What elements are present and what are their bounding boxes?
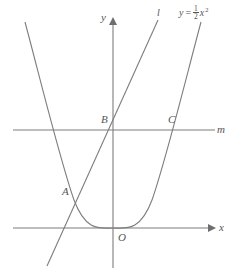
line-m-label: m — [217, 124, 225, 135]
equation-denominator: 2 — [193, 12, 199, 21]
point-c-label: C — [168, 114, 175, 125]
point-a-label: A — [62, 186, 69, 197]
equation-variable: x — [200, 8, 204, 18]
y-axis-arrow-icon — [109, 17, 117, 25]
equation-operator: = — [184, 8, 192, 18]
line-l-label: l — [157, 8, 160, 18]
x-axis-label: x — [219, 222, 224, 233]
x-axis-arrow-icon — [208, 224, 216, 232]
equation-numerator: 1 — [193, 5, 199, 13]
point-b-label: B — [101, 114, 108, 125]
math-figure: y x O A B C l m y = 1 2 x 2 — [0, 0, 242, 275]
equation-exponent: 2 — [205, 7, 208, 14]
equation-fraction: 1 2 — [193, 5, 199, 22]
y-axis-label: y — [101, 12, 106, 23]
origin-label: O — [118, 232, 126, 243]
line-l — [47, 20, 158, 266]
equation-lhs: y — [179, 8, 183, 18]
equation-label: y = 1 2 x 2 — [179, 5, 209, 22]
